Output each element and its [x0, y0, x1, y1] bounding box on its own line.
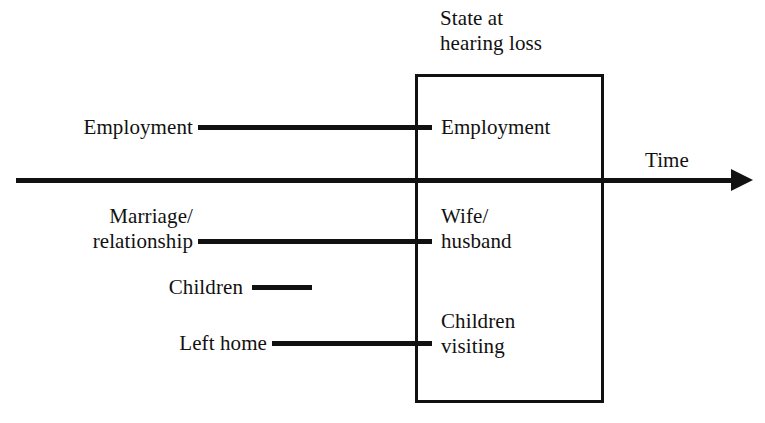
life-events-timeline-diagram: State at hearing loss Employment Employm…	[0, 0, 765, 423]
row-left-home-after-label-line-1: Children	[441, 309, 621, 334]
row-left-home-connector	[272, 341, 432, 346]
time-axis-line	[16, 178, 734, 183]
row-employment-after-label: Employment	[441, 115, 621, 140]
row-children-connector	[252, 285, 312, 290]
row-marriage-connector	[198, 239, 432, 244]
row-left-home-before-label: Left home	[74, 331, 267, 356]
row-employment-connector	[198, 125, 432, 130]
row-children-before-label: Children	[50, 275, 243, 300]
time-axis-label: Time	[645, 148, 755, 173]
row-left-home-after-label-line-2: visiting	[441, 334, 621, 359]
row-marriage-before-label-line-1: Marriage/	[0, 204, 193, 229]
state-box-heading-line-2: hearing loss	[440, 31, 640, 56]
row-marriage-after-label-line-1: Wife/	[441, 204, 621, 229]
state-box-heading-line-1: State at	[440, 6, 640, 31]
row-marriage-before-label-line-2: relationship	[0, 229, 193, 254]
row-marriage-after-label-line-2: husband	[441, 229, 621, 254]
row-employment-before-label: Employment	[0, 115, 193, 140]
